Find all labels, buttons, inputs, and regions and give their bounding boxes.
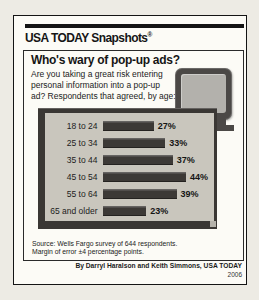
bar-rows: 18 to 2427%25 to 3433%35 to 4437%45 to 5… [45,118,214,220]
masthead-rule [25,24,244,28]
popup-window-chart-panel: 18 to 2427%25 to 3433%35 to 4437%45 to 5… [38,108,217,229]
resize-grip-icon [210,221,216,227]
masthead: USA TODAY Snapshots® [25,30,152,45]
bar-row: 45 to 5444% [45,169,214,186]
chart-subtitle: Are you taking a great risk entering per… [31,69,189,102]
bar-value-label: 39% [181,189,199,199]
bar-value-label: 33% [169,138,187,148]
chart-title: Who's wary of pop-up ads? [31,53,180,67]
bar [103,172,187,182]
bar-row: 18 to 2427% [45,118,214,135]
bar [103,206,147,216]
registered-mark: ® [147,31,152,38]
bar-row: 35 to 4437% [45,152,214,169]
bar-category-label: 55 to 64 [45,189,103,199]
infographic-frame: Who's wary of pop-up ads? Are you taking… [23,50,244,261]
byline: By Darryl Haralson and Keith Simmons, US… [75,262,242,270]
subtitle-line-1: Are you taking a great risk entering [31,69,189,80]
bar [103,189,177,199]
bar-value-label: 27% [158,121,176,131]
bar-row: 55 to 6439% [45,186,214,203]
monitor-stand-neck [216,119,226,126]
bar-category-label: 18 to 24 [45,121,103,131]
bar-value-label: 23% [150,206,168,216]
bar-category-label: 25 to 34 [45,138,103,148]
bar-row: 25 to 3433% [45,135,214,152]
bar [103,155,173,165]
bar [103,138,166,148]
bar-row: 65 and older23% [45,203,214,220]
bar-category-label: 35 to 44 [45,155,103,165]
subtitle-line-3: ad? Respondents that agreed, by age: [31,91,189,102]
source-note: Source: Wells Fargo survey of 644 respon… [32,240,177,255]
bar-value-label: 44% [190,172,208,182]
subtitle-line-2: personal information into a pop-up [31,80,189,91]
bar-value-label: 37% [177,155,195,165]
bar-category-label: 65 and older [45,206,103,216]
credit-block: By Darryl Haralson and Keith Simmons, US… [75,262,242,279]
source-line-1: Source: Wells Fargo survey of 644 respon… [32,240,177,248]
masthead-brand: USA TODAY Snapshots [25,30,147,45]
bar-category-label: 45 to 54 [45,172,103,182]
bar [103,121,154,131]
chart-plot-area: 18 to 2427%25 to 3433%35 to 4437%45 to 5… [45,113,214,221]
snapshot-card: USA TODAY Snapshots® Who's wary of pop-u… [13,15,247,285]
source-line-2: Margin of error ±4 percentage points. [32,248,177,256]
publication-year: 2006 [75,271,242,279]
